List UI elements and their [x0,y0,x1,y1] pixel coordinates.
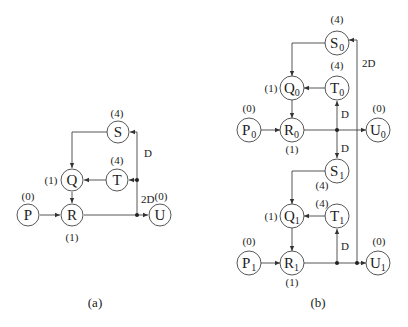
weight-p0: (0) [243,102,256,115]
edge-s0-q0 [292,43,325,76]
weight-r1: (1) [286,276,299,289]
weight-q: (1) [45,174,58,187]
retiming-diagram: S T Q P R U (4) (4) (1) (0) (1) (0) D 2D… [0,0,408,327]
node-label-q: Q [67,172,78,188]
node-label-p: P [24,207,32,223]
weight-s1: (4) [316,179,329,192]
edge-label-d: D [144,147,152,159]
weight-r: (1) [66,231,79,244]
node-label-s: S [114,124,122,140]
node-label-r: R [67,207,77,223]
caption-b: (b) [310,295,325,310]
weight-p1: (0) [243,235,256,248]
caption-a: (a) [88,295,102,310]
weight-s: (4) [111,107,124,120]
node-label-u: U [155,207,166,223]
edge-label-d-bottom: D [341,240,349,252]
weight-q1: (1) [265,210,278,223]
weight-u0: (0) [373,102,386,115]
edge-label-d-mid: D [341,142,349,154]
edge-label-d-top: D [341,108,349,120]
weight-r0: (1) [286,143,299,156]
edge-label-2d-b: 2D [362,57,376,69]
weight-t1: (4) [316,197,329,210]
weight-q0: (1) [265,82,278,95]
edge-label-2d: 2D [141,193,155,205]
weight-u: (0) [155,190,168,203]
weight-s0: (4) [331,13,344,26]
weight-p: (0) [22,190,35,203]
weight-t0: (4) [331,59,344,72]
edge-s-q [72,132,107,168]
node-label-t: T [112,172,121,188]
weight-t: (4) [111,154,124,167]
weight-u1: (0) [373,235,386,248]
